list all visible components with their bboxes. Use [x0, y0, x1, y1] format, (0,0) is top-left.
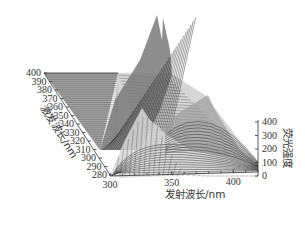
z-tick-label: 300 — [262, 130, 277, 141]
x-axis-label: 发射波长/nm — [165, 188, 225, 200]
x-tick-label: 350 — [164, 177, 179, 188]
y-tick-label: 280 — [92, 169, 107, 180]
eem-3d-surface-chart: 300350400 400390380370360350340330320310… — [0, 0, 305, 230]
x-tick-label: 300 — [103, 179, 118, 190]
z-axis-label: 荧光强度 — [282, 128, 294, 169]
z-tick-label: 0 — [262, 170, 267, 181]
x-tick-label: 400 — [226, 176, 241, 187]
z-tick-label: 100 — [262, 157, 277, 168]
z-tick-label: 200 — [262, 143, 277, 154]
z-tick-label: 400 — [262, 116, 277, 127]
